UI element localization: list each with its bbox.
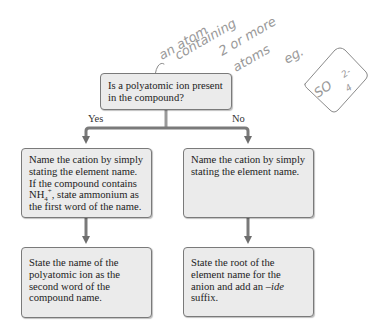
no-label: No <box>232 113 245 124</box>
yes-anion-line-3: second word of the <box>29 281 145 293</box>
question-box: Is a polyatomic ion present in the compo… <box>100 73 232 110</box>
no-anion-line-2: element name for the <box>191 269 307 281</box>
no-anion-line-4: suffix. <box>191 292 307 304</box>
yes-anion-box: State the name of the polyatomic ion as … <box>21 247 152 318</box>
handwritten-line-5: eg. <box>281 43 306 66</box>
no-anion-line-3: anion and add an –ide <box>191 281 307 293</box>
branch-connector <box>86 109 248 140</box>
no-anion-line-1: State the root of the <box>191 257 307 269</box>
question-line-2: in the compound? <box>108 92 225 104</box>
yes-anion-line-1: State the name of the <box>29 257 145 269</box>
example-subscript: 4 <box>343 82 354 94</box>
yes-label: Yes <box>88 113 103 124</box>
yes-cation-line-3: If the compound contains <box>29 178 145 190</box>
no-anion-box: State the root of the element name for t… <box>183 247 314 317</box>
yes-cation-line-5: the first word of the name. <box>29 201 145 213</box>
yes-cation-line-4: NH4+, state ammonium as <box>29 189 145 201</box>
yes-anion-line-4: compound name. <box>29 292 145 304</box>
no-cation-box: Name the cation by simply stating the el… <box>183 148 314 218</box>
example-formula: SO <box>311 78 335 101</box>
example-charge: 2- <box>339 66 352 79</box>
yes-anion-line-2: polyatomic ion as the <box>29 269 145 281</box>
yes-cation-line-1: Name the cation by simply <box>29 154 145 166</box>
no-cation-line-2: stating the element name. <box>191 166 307 178</box>
question-line-1: Is a polyatomic ion present <box>108 80 225 92</box>
yes-cation-box: Name the cation by simply stating the el… <box>21 148 152 218</box>
yes-cation-line-2: stating the element name. <box>29 166 145 178</box>
example-frame-icon <box>305 48 367 112</box>
no-cation-line-1: Name the cation by simply <box>191 154 307 166</box>
